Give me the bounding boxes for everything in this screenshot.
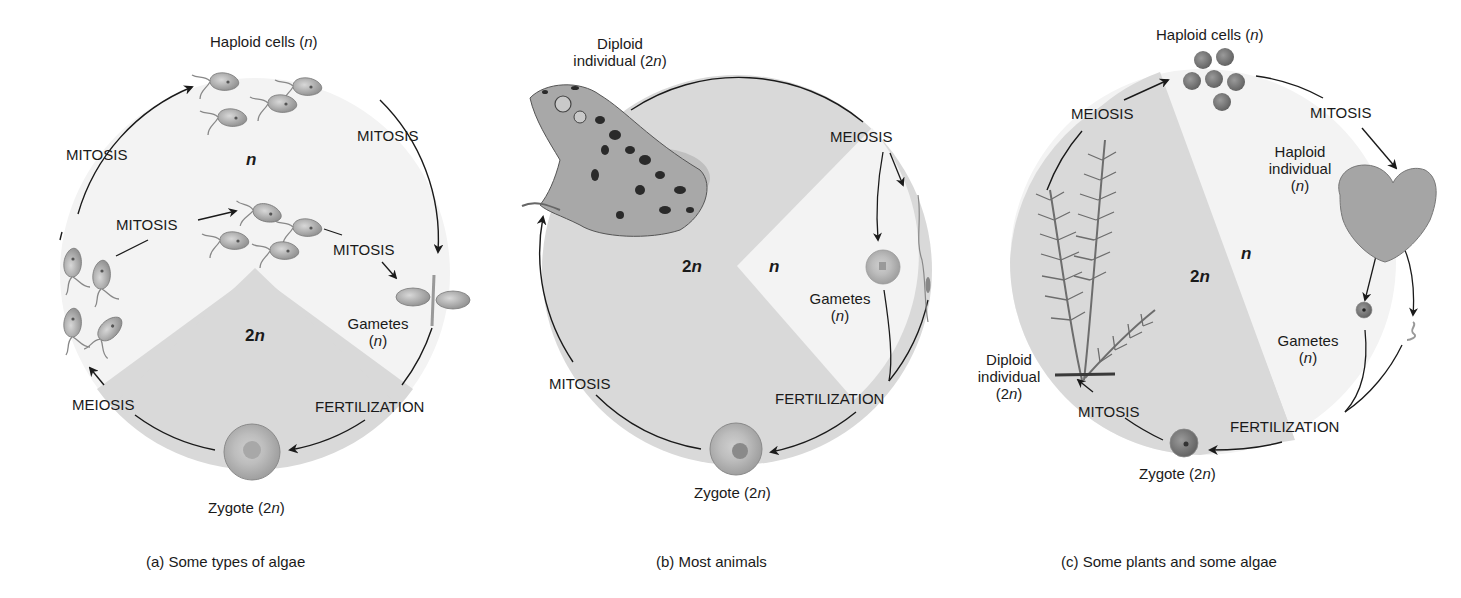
label-mitosis: MITOSIS — [116, 216, 177, 233]
caption-c: (c) Some plants and some algae — [1061, 553, 1277, 570]
label-haploid-cells: Haploid cells (n) — [210, 33, 318, 50]
label-ploidy-n: n — [1241, 245, 1251, 262]
sperm-cell — [1407, 322, 1415, 340]
caption-a: (a) Some types of algae — [146, 553, 305, 570]
caption-b: (b) Most animals — [656, 553, 767, 570]
label-fertilization: FERTILIZATION — [1230, 418, 1339, 435]
label-mitosis: MITOSIS — [66, 146, 127, 163]
label-mitosis: MITOSIS — [549, 375, 610, 392]
label-gametes: Gametes(n) — [1265, 332, 1351, 366]
label-zygote: Zygote (2n) — [208, 499, 285, 516]
label-diploid-individual: Diploidindividual (2n) — [550, 35, 690, 69]
label-zygote: Zygote (2n) — [1139, 465, 1216, 482]
label-gametes: Gametes(n) — [337, 315, 419, 349]
label-mitosis: MITOSIS — [1310, 104, 1371, 121]
label-ploidy-n: n — [769, 258, 779, 275]
label-ploidy-2n: 2n — [245, 327, 265, 344]
label-zygote: Zygote (2n) — [694, 484, 771, 501]
label-haploid-individual: Haploidindividual(n) — [1253, 143, 1347, 194]
label-meiosis: MEIOSIS — [1071, 105, 1134, 122]
label-meiosis: MEIOSIS — [72, 396, 135, 413]
label-fertilization: FERTILIZATION — [315, 398, 424, 415]
label-haploid-cells: Haploid cells (n) — [1156, 26, 1264, 43]
label-ploidy-2n: 2n — [682, 258, 702, 275]
label-gametes: Gametes(n) — [790, 290, 890, 324]
label-mitosis: MITOSIS — [357, 127, 418, 144]
label-fertilization: FERTILIZATION — [775, 390, 884, 407]
label-mitosis: MITOSIS — [333, 241, 394, 258]
label-ploidy-2n: 2n — [1190, 268, 1210, 285]
label-ploidy-n: n — [246, 151, 256, 168]
label-meiosis: MEIOSIS — [830, 128, 893, 145]
label-diploid-individual: Diploidindividual(2n) — [963, 351, 1055, 402]
label-mitosis: MITOSIS — [1078, 403, 1139, 420]
